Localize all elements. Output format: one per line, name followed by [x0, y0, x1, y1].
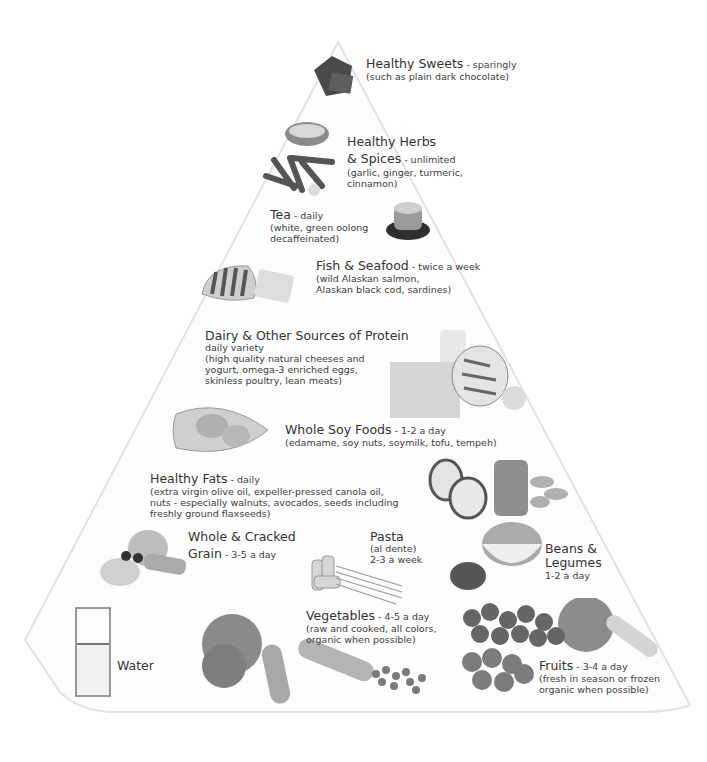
tier-water: Water — [117, 656, 154, 674]
tier-title: Healthy Fats — [150, 471, 228, 486]
tier-serving: - daily — [291, 210, 323, 221]
tier-title: Healthy Sweets — [366, 56, 463, 71]
tier-whole-soy-foods: Whole Soy Foods - 1-2 a day (edamame, so… — [285, 420, 497, 449]
tier-description: decaffeinated) — [270, 234, 368, 245]
tier-title: Healthy Herbs — [347, 135, 463, 149]
soy-beans-icon — [172, 400, 272, 462]
chocolate-icon — [308, 52, 364, 102]
tier-description: (edamame, soy nuts, soymilk, tofu, tempe… — [285, 438, 497, 449]
tier-description: freshly ground flaxseeds) — [150, 509, 398, 520]
tier-title: Vegetables — [306, 608, 375, 623]
beans-legumes-icon — [448, 520, 548, 592]
tier-title: Dairy & Other Sources of Protein — [205, 329, 409, 343]
tier-serving: - daily — [228, 474, 260, 485]
tier-serving: - sparingly — [463, 59, 516, 70]
tea-cup-icon — [384, 196, 432, 242]
tier-serving: - 4-5 a day — [375, 611, 429, 622]
tier-description: Alaskan black cod, sardines) — [316, 285, 480, 296]
fish-icon — [198, 254, 298, 306]
tier-herbs-spices: Healthy Herbs & Spices - unlimited (garl… — [347, 135, 463, 190]
tier-serving: - twice a week — [409, 261, 481, 272]
tier-serving: - unlimited — [401, 154, 455, 165]
tier-fruits: Fruits - 3-4 a day (fresh in season or f… — [539, 656, 660, 696]
tier-pasta: Pasta (al dente) 2-3 a week — [370, 530, 422, 566]
tier-serving: - 3-5 a day — [222, 549, 276, 560]
tier-serving: 1-2 a day — [545, 571, 602, 582]
tier-vegetables: Vegetables - 4-5 a day (raw and cooked, … — [306, 606, 437, 646]
water-glass-icon — [72, 604, 114, 700]
tier-dairy-protein: Dairy & Other Sources of Protein daily v… — [205, 329, 409, 387]
tier-serving: - 1-2 a day — [392, 425, 446, 436]
tier-title-line2: & Spices — [347, 151, 401, 166]
tier-title: Whole & Cracked — [188, 530, 296, 544]
tier-description: organic when possible) — [539, 685, 660, 696]
tier-description: organic when possible) — [306, 635, 437, 646]
tier-title: Fish & Seafood — [316, 258, 409, 273]
tier-healthy-fats: Healthy Fats - daily (extra virgin olive… — [150, 469, 398, 520]
tier-whole-grain: Whole & Cracked Grain - 3-5 a day — [188, 530, 296, 563]
tier-description: (such as plain dark chocolate) — [366, 72, 517, 83]
tier-serving: 2-3 a week — [370, 555, 422, 566]
herbs-spices-icon — [262, 118, 352, 198]
tier-title-line2: Legumes — [545, 556, 602, 570]
tier-title: Pasta — [370, 530, 422, 544]
tier-title-line2: Grain — [188, 546, 222, 561]
tier-title: Whole Soy Foods — [285, 422, 392, 437]
tier-fish-seafood: Fish & Seafood - twice a week (wild Alas… — [316, 256, 480, 296]
tier-serving: - 3-4 a day — [573, 661, 627, 672]
tier-healthy-sweets: Healthy Sweets - sparingly (such as plai… — [366, 54, 517, 83]
tier-title: Fruits — [539, 658, 573, 673]
grain-icon — [98, 526, 188, 588]
tier-description: cinnamon) — [347, 179, 463, 190]
tier-title: Tea — [270, 207, 291, 222]
tier-description: skinless poultry, lean meats) — [205, 376, 409, 387]
tier-title: Water — [117, 658, 154, 673]
healthy-fats-icon — [424, 456, 574, 522]
tier-beans-legumes: Beans & Legumes 1-2 a day — [545, 542, 602, 582]
tier-tea: Tea - daily (white, green oolong decaffe… — [270, 205, 368, 245]
tier-title: Beans & — [545, 542, 602, 556]
